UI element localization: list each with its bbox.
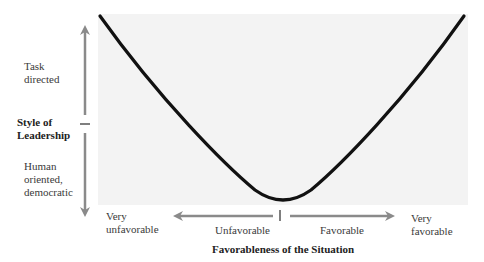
y-top-label-line: directed bbox=[24, 73, 59, 86]
y-bottom-label-line: oriented, bbox=[24, 173, 73, 186]
y-bottom-label-line: Human bbox=[24, 160, 73, 173]
y-top-label: Task directed bbox=[24, 60, 59, 86]
x-right-end-line: favorable bbox=[411, 225, 453, 238]
y-bottom-label-line: democratic bbox=[24, 186, 73, 199]
x-left-end-line: unfavorable bbox=[106, 223, 159, 236]
x-right-end-label: Very favorable bbox=[411, 212, 453, 238]
y-bottom-label: Human oriented, democratic bbox=[24, 160, 73, 199]
x-left-arrow-label: Unfavorable bbox=[215, 224, 270, 237]
x-right-arrow-label: Favorable bbox=[320, 224, 364, 237]
x-left-end-label: Very unfavorable bbox=[106, 210, 159, 236]
leadership-u-curve bbox=[100, 16, 464, 200]
x-right-end-line: Very bbox=[411, 212, 453, 225]
y-top-label-line: Task bbox=[24, 60, 59, 73]
x-axis-title: Favorableness of the Situation bbox=[212, 243, 354, 256]
y-axis-title: Style of Leadership bbox=[17, 116, 70, 142]
y-axis-title-line: Style of bbox=[17, 116, 70, 129]
x-left-end-line: Very bbox=[106, 210, 159, 223]
y-axis-title-line: Leadership bbox=[17, 129, 70, 142]
